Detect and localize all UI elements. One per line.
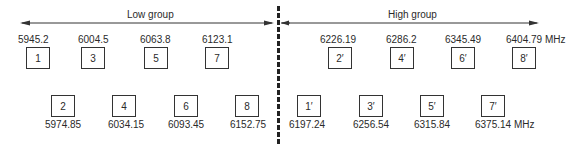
channel-box: 1: [26, 47, 50, 69]
arrow-right-icon: [264, 21, 274, 26]
freq-label: 6345.49: [445, 34, 481, 45]
freq-label: 6256.54: [353, 119, 389, 130]
channel-box: 4′: [390, 47, 414, 69]
channel-box: 5′: [420, 95, 444, 117]
freq-label: 6152.75: [230, 119, 266, 130]
channel-box: 8: [235, 95, 259, 117]
channel-box: 8′: [512, 47, 536, 69]
channel-box: 7: [205, 47, 229, 69]
freq-label: 6226.19: [320, 34, 356, 45]
freq-label: 5974.85: [45, 119, 81, 130]
channel-box: 2: [51, 95, 75, 117]
high-group-label: High group: [388, 9, 437, 20]
freq-label: 6063.8: [140, 34, 171, 45]
channel-box: 6′: [451, 47, 475, 69]
freq-label: 6375.14 MHz: [475, 119, 534, 130]
arrow-right-icon: [529, 21, 539, 26]
channel-box: 1′: [297, 95, 321, 117]
freq-label: 6093.45: [168, 119, 204, 130]
freq-label: 6404.79 MHz: [506, 34, 565, 45]
channel-box: 6: [174, 95, 198, 117]
freq-label: 6315.84: [414, 119, 450, 130]
channel-box: 5: [144, 47, 168, 69]
channel-box: 7′: [481, 95, 505, 117]
group-divider: [277, 6, 280, 146]
arrow-left-icon: [20, 21, 30, 26]
low-group-label: Low group: [127, 9, 174, 20]
channel-box: 3: [81, 47, 105, 69]
channel-box: 3′: [359, 95, 383, 117]
channel-box: 4: [112, 95, 136, 117]
freq-label: 5945.2: [18, 34, 49, 45]
freq-label: 6197.24: [289, 119, 325, 130]
freq-label: 6286.2: [386, 34, 417, 45]
freq-label: 6123.1: [202, 34, 233, 45]
freq-label: 6004.5: [78, 34, 109, 45]
channel-box: 2′: [328, 47, 352, 69]
freq-label: 6034.15: [108, 119, 144, 130]
